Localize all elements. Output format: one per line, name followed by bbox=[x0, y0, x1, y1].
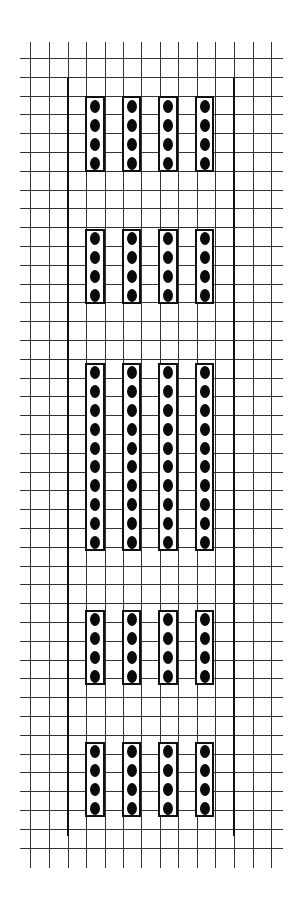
grid-row-line bbox=[20, 434, 283, 435]
dot bbox=[200, 745, 210, 758]
dot bbox=[163, 670, 173, 683]
dot bbox=[90, 536, 100, 549]
dot bbox=[163, 270, 173, 283]
dot-box bbox=[195, 96, 214, 172]
grid-row-line bbox=[20, 58, 283, 59]
grid-row-line bbox=[20, 584, 283, 585]
grid-row-line bbox=[20, 678, 283, 679]
dot bbox=[90, 802, 100, 815]
dot bbox=[200, 764, 210, 777]
dot-box bbox=[122, 363, 141, 551]
dot bbox=[90, 613, 100, 626]
dot bbox=[127, 479, 137, 492]
dot bbox=[200, 802, 210, 815]
dot bbox=[90, 232, 100, 245]
dot bbox=[127, 232, 137, 245]
right-border-line bbox=[233, 78, 235, 836]
dot-box bbox=[158, 96, 178, 172]
grid-column-line bbox=[215, 42, 216, 868]
grid-row-line bbox=[20, 848, 283, 849]
grid-row-line bbox=[20, 340, 283, 341]
dot bbox=[163, 289, 173, 302]
dot bbox=[90, 651, 100, 664]
grid-row-line bbox=[20, 453, 283, 454]
dot bbox=[90, 442, 100, 455]
dot bbox=[200, 460, 210, 473]
dot-box bbox=[158, 610, 178, 685]
dot-box bbox=[158, 363, 178, 551]
dot bbox=[90, 517, 100, 530]
dot-box bbox=[122, 742, 141, 817]
dot bbox=[127, 289, 137, 302]
dot bbox=[127, 442, 137, 455]
dot bbox=[163, 783, 173, 796]
dot bbox=[127, 670, 137, 683]
dot bbox=[127, 517, 137, 530]
grid-row-line bbox=[20, 772, 283, 773]
grid-column-line bbox=[271, 42, 272, 868]
dot bbox=[200, 404, 210, 417]
dot bbox=[90, 632, 100, 645]
grid-row-line bbox=[20, 152, 283, 153]
dot bbox=[163, 232, 173, 245]
grid-row-line bbox=[20, 566, 283, 567]
dot bbox=[163, 479, 173, 492]
dot bbox=[200, 613, 210, 626]
grid-column-line bbox=[49, 42, 50, 868]
dot bbox=[163, 138, 173, 151]
dot bbox=[163, 423, 173, 436]
grid-row-line bbox=[20, 754, 283, 755]
dot bbox=[163, 251, 173, 264]
grid-row-line bbox=[20, 509, 283, 510]
dot bbox=[200, 536, 210, 549]
dot-box bbox=[85, 363, 105, 551]
dot bbox=[200, 232, 210, 245]
dot bbox=[163, 745, 173, 758]
grid-diagram bbox=[0, 0, 296, 916]
grid-row-line bbox=[20, 265, 283, 266]
dot bbox=[90, 783, 100, 796]
dot bbox=[163, 119, 173, 132]
dot bbox=[200, 251, 210, 264]
dot bbox=[163, 536, 173, 549]
dot bbox=[163, 632, 173, 645]
grid-column-line bbox=[105, 42, 106, 868]
grid-row-line bbox=[20, 171, 283, 172]
grid-row-line bbox=[20, 77, 283, 78]
dot bbox=[163, 442, 173, 455]
dot bbox=[200, 783, 210, 796]
grid-row-line bbox=[20, 603, 283, 604]
grid-row-line bbox=[20, 359, 283, 360]
dot bbox=[127, 745, 137, 758]
dot-box bbox=[85, 229, 105, 304]
dot-box bbox=[158, 229, 178, 304]
dot bbox=[127, 270, 137, 283]
dot bbox=[90, 251, 100, 264]
dot bbox=[127, 157, 137, 170]
dot bbox=[127, 119, 137, 132]
dot bbox=[127, 404, 137, 417]
dot bbox=[90, 670, 100, 683]
dot bbox=[163, 651, 173, 664]
grid-column-line bbox=[253, 42, 254, 868]
grid-row-line bbox=[20, 321, 283, 322]
grid-row-line bbox=[20, 190, 283, 191]
dot bbox=[200, 138, 210, 151]
dot bbox=[90, 460, 100, 473]
dot bbox=[200, 442, 210, 455]
grid-row-line bbox=[20, 396, 283, 397]
dot bbox=[200, 270, 210, 283]
dot-box bbox=[85, 610, 105, 685]
dot bbox=[200, 479, 210, 492]
dot bbox=[163, 366, 173, 379]
grid-row-line bbox=[20, 415, 283, 416]
dot bbox=[90, 385, 100, 398]
dot-box bbox=[85, 742, 105, 817]
grid-row-line bbox=[20, 547, 283, 548]
grid-row-line bbox=[20, 641, 283, 642]
dot-box bbox=[195, 742, 214, 817]
dot-box bbox=[195, 363, 214, 551]
dot-box bbox=[85, 96, 105, 172]
dot bbox=[127, 802, 137, 815]
dot bbox=[163, 764, 173, 777]
